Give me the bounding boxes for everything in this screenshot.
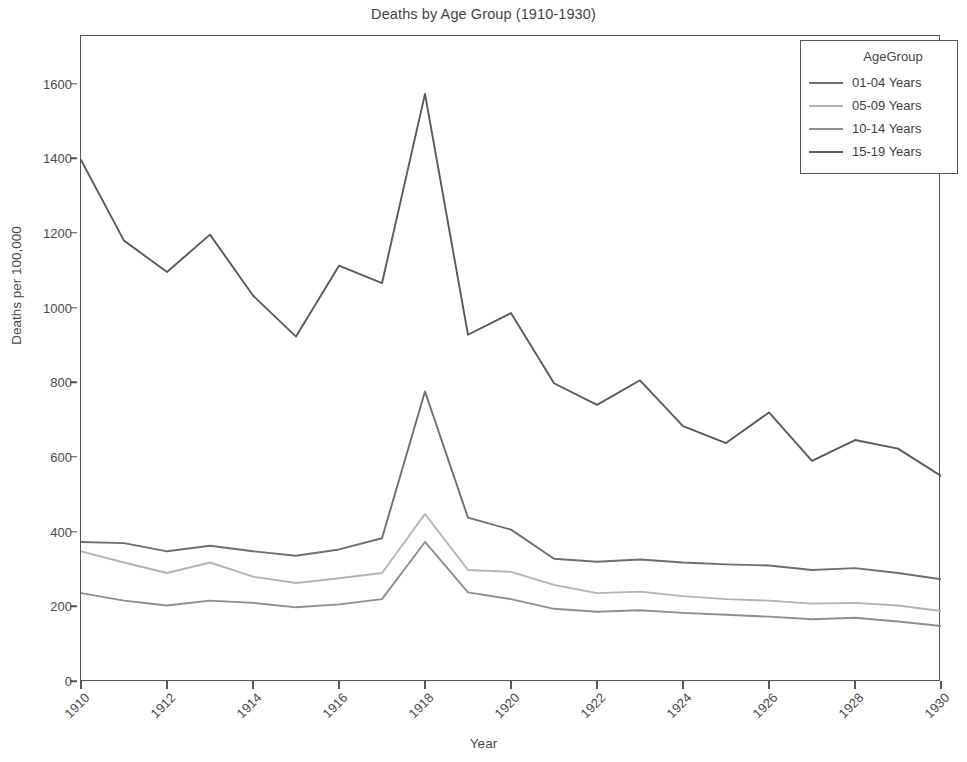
x-tick-label: 1914 [220,690,265,735]
y-tick-mark [70,157,77,159]
series-line [81,514,941,611]
y-tick-mark [70,531,77,533]
x-tick-label: 1910 [48,690,93,735]
x-tick-labels: 1910191219141916191819201922192419261928… [80,690,940,740]
x-tick-label: 1912 [134,690,179,735]
legend-item-label: 01-04 Years [852,75,921,90]
x-tick-label: 1928 [822,690,867,735]
legend-swatch [809,151,843,153]
x-tick-mark [596,681,598,689]
y-tick-mark [70,606,77,608]
legend-title: AgeGroup [809,49,949,64]
series-line [81,542,941,626]
legend-item[interactable]: 05-09 Years [809,94,949,117]
x-tick-mark [80,681,82,689]
y-tick-mark [70,382,77,384]
legend-rows: 01-04 Years05-09 Years10-14 Years15-19 Y… [809,71,949,163]
x-tick-label: 1924 [650,690,695,735]
x-tick-label: 1930 [908,690,953,735]
y-tick-mark [70,456,77,458]
x-tick-label: 1922 [564,690,609,735]
x-tick-mark [338,681,340,689]
legend: AgeGroup 01-04 Years05-09 Years10-14 Yea… [800,40,958,174]
series-line [81,391,941,579]
x-tick-label: 1920 [478,690,523,735]
x-tick-mark [940,681,942,689]
x-tick-label: 1926 [736,690,781,735]
legend-item-label: 05-09 Years [852,98,921,113]
y-tick-mark [70,307,77,309]
legend-item-label: 10-14 Years [852,121,921,136]
x-tick-mark [166,681,168,689]
legend-swatch [809,128,843,130]
x-axis-title: Year [0,736,967,751]
chart-title: Deaths by Age Group (1910-1930) [0,6,967,22]
y-tick-mark [70,232,77,234]
legend-item[interactable]: 10-14 Years [809,117,949,140]
x-tick-mark [768,681,770,689]
x-tick-mark [510,681,512,689]
x-tick-label: 1916 [306,690,351,735]
y-tick-mark [70,680,77,682]
y-tick-mark [70,83,77,85]
legend-item[interactable]: 15-19 Years [809,140,949,163]
chart-figure: Deaths by Age Group (1910-1930) Deaths p… [0,0,967,762]
x-tick-mark [854,681,856,689]
x-tick-mark [424,681,426,689]
legend-swatch [809,82,843,84]
x-tick-mark [252,681,254,689]
legend-swatch [809,105,843,107]
x-tick-mark [682,681,684,689]
x-tick-label: 1918 [392,690,437,735]
legend-item[interactable]: 01-04 Years [809,71,949,94]
legend-item-label: 15-19 Years [852,144,921,159]
y-tick-marks [0,35,80,681]
